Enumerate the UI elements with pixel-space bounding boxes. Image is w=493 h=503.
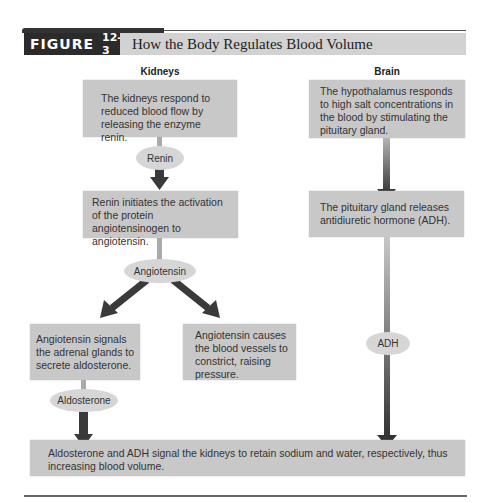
arrow-angiotensin-left-shaft (112, 280, 147, 308)
connector-step2-angiotensin (157, 238, 162, 260)
brain-step2-box: The pituitary gland releases antidiureti… (309, 191, 464, 237)
footer-rule (24, 495, 467, 497)
column-header-kidneys: Kidneys (120, 66, 200, 77)
result-box: Aldosterone and ADH signal the kidneys t… (30, 440, 465, 476)
aldosterone-pill: Aldosterone (50, 389, 118, 412)
kidneys-step1-box: The kidneys respond to reduced blood flo… (83, 80, 237, 137)
kidneys-step3b-box: Angiotensin causes the blood vessels to … (183, 324, 296, 380)
renin-pill: Renin (136, 146, 184, 170)
arrow-renin-step2-head (150, 177, 169, 190)
kidneys-step3a-box: Angiotensin signals the adrenal glands t… (30, 324, 140, 380)
brain-step1-box: The hypothalamus responds to high salt c… (309, 80, 465, 138)
kidneys-step2-box: Renin initiates the activation of the pr… (83, 191, 238, 238)
adh-pill: ADH (366, 332, 410, 355)
arrow-angiotensin-right-shaft (173, 280, 208, 308)
angiotensin-pill: Angiotensin (124, 259, 196, 283)
arrow-aldosterone-result-shaft (79, 412, 88, 436)
arrow-renin-step2-shaft (155, 169, 164, 178)
arrow-brain-step1-step2-shaft (383, 138, 390, 190)
column-header-brain: Brain (347, 66, 427, 77)
connector-step1-renin (157, 136, 162, 146)
